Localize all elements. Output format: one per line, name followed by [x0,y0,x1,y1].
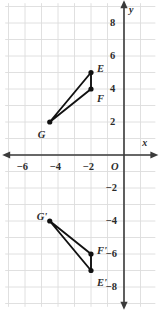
triangle-image [50,221,91,271]
point-label-G-prime: G' [37,212,48,223]
y-tick-label-pos-0: 8 [110,18,115,29]
x-axis-arrow-left [2,151,10,158]
x-tick-label-2: −2 [83,162,94,173]
point-G-prime [47,218,52,223]
y-axis-arrow-down [120,302,127,310]
origin-label: O [111,162,119,173]
x-axis-label: x [142,138,147,148]
triangle-pre-image [50,73,91,123]
point-label-G: G [38,130,46,141]
y-tick-label-pos-1: 6 [110,51,115,62]
y-tick-label-neg-3: −8 [106,282,117,293]
y-tick-label-neg-1: −4 [106,216,117,227]
point-G [47,119,52,124]
y-axis-arrow-up [120,0,127,8]
x-tick-label-1: −4 [50,162,61,173]
point-label-E: E [97,64,104,75]
x-tick-label-0: −6 [17,162,28,173]
y-tick-label-pos-2: 4 [110,84,115,95]
y-tick-label-neg-2: −6 [106,249,117,260]
point-F-prime [88,251,93,256]
point-E [88,70,93,75]
axis-lines [2,0,158,310]
point-F [88,86,93,91]
coordinate-plane-figure: EFGE'F'G'−6−4−28642−2−4−6−8Oxy [0,0,159,316]
y-axis-label: y [129,5,133,15]
point-E-prime [88,268,93,273]
point-label-F: F [97,94,104,105]
y-tick-label-neg-0: −2 [106,183,117,194]
y-tick-label-pos-3: 2 [110,117,115,128]
coordinate-grid-svg [0,0,159,316]
x-axis-arrow-right [150,151,158,158]
